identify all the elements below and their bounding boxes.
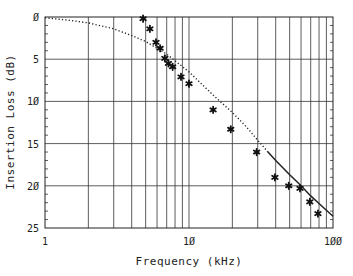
star-marker <box>272 174 278 180</box>
y-axis-title: Insertion Loss (dB) <box>4 54 17 189</box>
star-marker <box>210 107 216 113</box>
x-tick-labels: 11Ø1ØØ <box>42 236 342 247</box>
y-tick-label: 25 <box>27 223 39 234</box>
grid-lines <box>45 17 333 228</box>
y-tick-labels: Ø51Ø152Ø25 <box>27 12 39 234</box>
x-tick-label: 1 <box>42 236 48 247</box>
y-tick-label: 5 <box>33 54 39 65</box>
star-marker <box>307 199 313 205</box>
y-tick-label: 1Ø <box>27 96 39 107</box>
y-tick-label: 2Ø <box>27 181 39 192</box>
x-axis-title: Frequency (kHz) <box>136 255 243 268</box>
star-marker <box>140 15 146 21</box>
star-marker <box>186 80 192 86</box>
model-curve-solid <box>267 151 333 216</box>
x-tick-label: 1ØØ <box>324 236 342 247</box>
y-tick-label: 15 <box>27 139 39 150</box>
star-marker <box>178 74 184 80</box>
star-marker <box>254 149 260 155</box>
star-marker <box>315 210 321 216</box>
star-marker <box>147 26 153 32</box>
star-marker <box>153 39 159 45</box>
star-marker <box>157 45 163 51</box>
x-tick-label: 1Ø <box>183 236 195 247</box>
insertion-loss-chart: Ø51Ø152Ø25 11Ø1ØØ Frequency (kHz) Insert… <box>0 0 353 276</box>
y-tick-label: Ø <box>33 12 39 23</box>
